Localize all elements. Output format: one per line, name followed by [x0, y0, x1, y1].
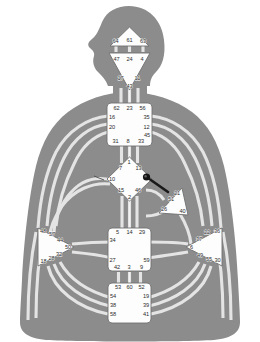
gate-number[interactable]: 34	[109, 237, 115, 243]
gate-number[interactable]: 49	[197, 252, 203, 258]
gate-number[interactable]: 3	[127, 264, 130, 270]
gate-number[interactable]: 37	[196, 236, 202, 242]
gate-number[interactable]: 10	[109, 176, 115, 182]
gate-number[interactable]: 2	[128, 194, 131, 200]
gate-number[interactable]: 44	[57, 237, 63, 243]
gate-number[interactable]: 17	[117, 75, 123, 81]
gate-number[interactable]: 18	[40, 258, 46, 264]
gate-number[interactable]: 43	[126, 83, 132, 89]
gate-number[interactable]: 60	[126, 284, 132, 290]
gate-number[interactable]: 14	[126, 229, 132, 235]
gate-number[interactable]: 7	[119, 165, 122, 171]
gate-number[interactable]: 55	[206, 256, 212, 262]
gate-number[interactable]: 31	[112, 138, 118, 144]
gate-number[interactable]: 47	[113, 56, 119, 62]
gate-number[interactable]: 42	[114, 264, 120, 270]
gate-number[interactable]: 57	[49, 231, 55, 237]
gate-number[interactable]: 26	[161, 206, 167, 212]
gate-number[interactable]: 32	[56, 251, 62, 257]
gate-number[interactable]: 1	[127, 159, 130, 165]
gate-number[interactable]: 39	[143, 302, 149, 308]
gate-number[interactable]: 19	[143, 293, 149, 299]
gate-number[interactable]: 21	[174, 190, 180, 196]
gate-number[interactable]: 61	[126, 37, 132, 43]
gate-number[interactable]: 4	[140, 56, 143, 62]
gate-number[interactable]: 11	[135, 75, 141, 81]
gate-number[interactable]: 28	[48, 255, 54, 261]
gate-number[interactable]: 40	[179, 208, 185, 214]
gate-number[interactable]: 63	[140, 38, 146, 44]
gate-number[interactable]: 29	[139, 229, 145, 235]
bodygraph-figure: 6461634724417114362235616352012453183317…	[0, 0, 260, 342]
gate-number[interactable]: 20	[109, 124, 115, 130]
gate-number[interactable]: 23	[126, 105, 132, 111]
gate-number[interactable]: 16	[109, 114, 115, 120]
gate-number[interactable]: 13	[135, 165, 141, 171]
gate-number[interactable]: 62	[113, 105, 119, 111]
gate-number[interactable]: 53	[115, 284, 121, 290]
gate-number[interactable]: 50	[65, 244, 71, 250]
gate-number[interactable]: 9	[140, 264, 143, 270]
bodygraph-diagram: 6461634724417114362235616352012453183317…	[0, 0, 260, 342]
gate-number[interactable]: 27	[109, 257, 115, 263]
gate-number[interactable]: 48	[40, 228, 46, 234]
gate-number[interactable]: 22	[204, 229, 210, 235]
gate-number[interactable]: 41	[143, 311, 149, 317]
gate-number[interactable]: 35	[143, 114, 149, 120]
gate-number[interactable]: 52	[138, 284, 144, 290]
gate-number[interactable]: 59	[143, 257, 149, 263]
gate-number[interactable]: 12	[143, 124, 149, 130]
gate-number[interactable]: 56	[139, 105, 145, 111]
gate-number[interactable]: 8	[126, 138, 129, 144]
gate-number[interactable]: 46	[135, 187, 141, 193]
gate-number[interactable]: 54	[110, 293, 116, 299]
gate-number[interactable]: 51	[168, 196, 174, 202]
gate-number[interactable]: 24	[126, 56, 132, 62]
gate-number[interactable]: 36	[214, 228, 220, 234]
gate-number[interactable]: 33	[138, 138, 144, 144]
gate-number[interactable]: 58	[110, 311, 116, 317]
gate-number[interactable]: 6	[190, 244, 193, 250]
gate-number[interactable]: 45	[144, 132, 150, 138]
gate-number[interactable]: 38	[110, 302, 116, 308]
gate-number[interactable]: 30	[214, 257, 220, 263]
gate-number[interactable]: 5	[116, 229, 119, 235]
gate-number[interactable]: 64	[112, 38, 118, 44]
gate-number[interactable]: 15	[118, 187, 124, 193]
